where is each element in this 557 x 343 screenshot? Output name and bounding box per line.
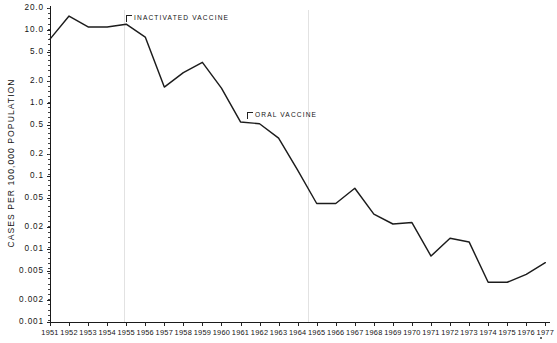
annotation-marker-icon — [126, 15, 132, 22]
page-artifact-dot — [540, 337, 542, 339]
plot-area — [0, 0, 557, 343]
annotation-label: ORAL VACCINE — [255, 111, 317, 118]
polio-incidence-line — [50, 16, 545, 282]
annotation-label: INACTIVATED VACCINE — [134, 14, 229, 21]
annotation-marker-icon — [247, 112, 253, 119]
chart-container: CASES PER 100,000 POPULATION 20.010.05.0… — [0, 0, 557, 343]
